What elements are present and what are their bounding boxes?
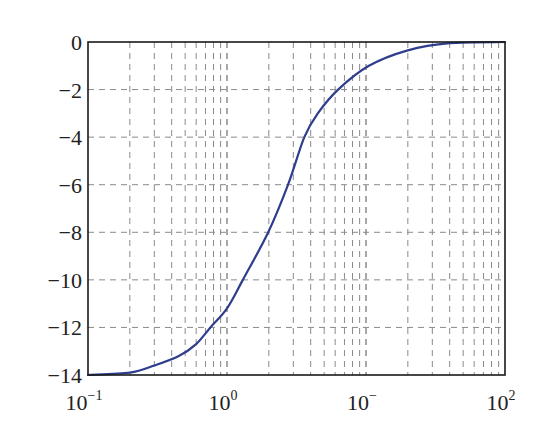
x-tick-label: 10− <box>347 388 377 415</box>
x-axis-tick-labels: 10−110010−102 <box>66 388 516 415</box>
response-curve <box>88 42 505 375</box>
chart: 0−2−4−6−8−10−12−14 10−110010−102 <box>0 0 544 432</box>
plot-frame <box>88 42 505 375</box>
y-axis-tick-labels: 0−2−4−6−8−10−12−14 <box>48 30 82 388</box>
x-tick-label: 10−1 <box>66 388 103 415</box>
y-tick-label: −8 <box>59 220 82 245</box>
x-tick-label: 102 <box>487 388 516 415</box>
y-tick-label: −12 <box>48 315 82 340</box>
y-tick-label: −10 <box>48 268 82 293</box>
x-tick-label: 100 <box>209 388 238 415</box>
y-tick-label: −14 <box>48 363 82 388</box>
y-tick-label: 0 <box>71 30 82 55</box>
grid-lines <box>88 42 505 375</box>
y-tick-label: −6 <box>59 173 82 198</box>
y-tick-label: −2 <box>59 78 82 103</box>
y-tick-label: −4 <box>59 125 82 150</box>
